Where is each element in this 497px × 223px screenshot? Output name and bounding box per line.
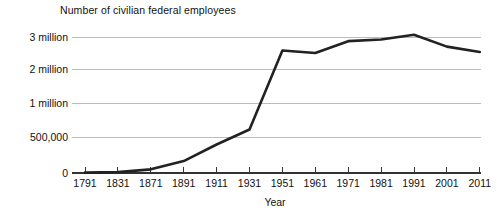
x-axis-tick-label: 1991 (402, 177, 425, 189)
y-axis-tick-label: 3 million (0, 31, 68, 43)
x-axis-tick-label: 1891 (172, 177, 195, 189)
x-axis-tick-label: 2011 (469, 177, 492, 189)
x-axis-tick-label: 1931 (238, 177, 261, 189)
chart-plot-svg (0, 0, 497, 223)
y-axis-tick-label: 500,000 (0, 131, 68, 143)
y-axis-tick-label: 1 million (0, 97, 68, 109)
gridlines-group (72, 37, 481, 173)
x-axis-tick-label: 1981 (369, 177, 392, 189)
x-axis-tick-label: 1831 (106, 177, 129, 189)
x-axis-tick-label: 2001 (435, 177, 458, 189)
data-series-line (85, 35, 480, 173)
x-axis-title: Year (264, 196, 285, 208)
x-axis-tick-label: 1951 (271, 177, 294, 189)
x-axis-tick-label: 1911 (205, 177, 228, 189)
x-axis-tick-label: 1871 (139, 177, 162, 189)
x-axis-tick-label: 1961 (304, 177, 327, 189)
x-axis-tick-label: 1971 (337, 177, 360, 189)
x-axis-tick-label: 1791 (73, 177, 96, 189)
chart-container: Number of civilian federal employees 050… (0, 0, 497, 223)
y-axis-tick-label: 0 (0, 167, 68, 179)
y-axis-tick-label: 2 million (0, 63, 68, 75)
